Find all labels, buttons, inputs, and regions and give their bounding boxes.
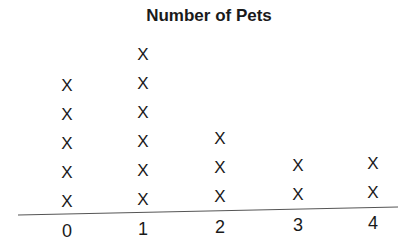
x-marker: X [57, 106, 77, 123]
axis-tick-label: 4 [363, 214, 383, 232]
x-marker: X [133, 104, 153, 121]
axis-tick-label: 1 [133, 220, 153, 238]
axis-tick-label: 0 [57, 222, 77, 240]
dot-plot-area: 0XXXXX1XXXXXX2XXX3XX4XX [0, 0, 418, 250]
x-marker: X [133, 133, 153, 150]
x-marker: X [210, 130, 230, 147]
x-marker: X [57, 164, 77, 181]
axis-tick-label: 3 [288, 216, 308, 234]
x-marker: X [288, 186, 308, 203]
x-marker: X [210, 188, 230, 205]
x-marker: X [133, 162, 153, 179]
x-marker: X [57, 135, 77, 152]
number-line-axis [0, 0, 418, 250]
x-marker: X [57, 77, 77, 94]
x-marker: X [133, 75, 153, 92]
x-marker: X [57, 193, 77, 210]
axis-tick-label: 2 [210, 218, 230, 236]
x-marker: X [133, 46, 153, 63]
x-marker: X [133, 191, 153, 208]
x-marker: X [363, 155, 383, 172]
x-marker: X [363, 184, 383, 201]
x-marker: X [288, 157, 308, 174]
x-marker: X [210, 159, 230, 176]
